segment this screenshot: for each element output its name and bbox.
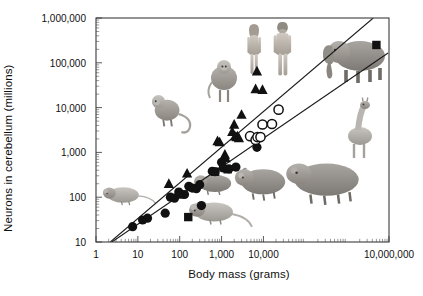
data-point [223,165,231,173]
human-female-illustration [247,24,261,74]
data-point [231,162,240,171]
regression-line-upper-fit [110,18,373,242]
data-point [164,178,174,188]
data-point [195,180,204,189]
human-male-illustration [274,22,291,76]
large-monkey-illustration [208,60,237,102]
data-point [229,119,239,129]
animal-illustrations [103,22,385,227]
regression-line-lower-fit [112,53,388,242]
data-point [256,132,265,141]
data-point [184,213,192,221]
data-point [182,168,192,178]
data-point [161,209,170,218]
data-point [274,105,283,114]
series-filled-circle [128,143,262,232]
data-point [128,222,137,231]
data-point [372,41,380,49]
data-point [258,120,267,129]
giraffe-illustration [348,98,372,159]
capybara-illustration [286,163,358,204]
data-point [211,168,219,176]
small-monkey-illustration [152,95,190,132]
plot-area [0,0,423,296]
data-point [176,190,184,198]
mouse-illustration [103,187,155,205]
data-point [267,119,276,128]
data-points [128,41,381,231]
data-point [257,84,267,94]
cerebellum-neurons-scatter-chart: Neurons in cerebellum (millions) Body ma… [0,0,423,296]
agouti-illustration [235,168,285,201]
data-point [197,201,206,210]
data-point [143,214,152,223]
data-point [236,109,246,119]
